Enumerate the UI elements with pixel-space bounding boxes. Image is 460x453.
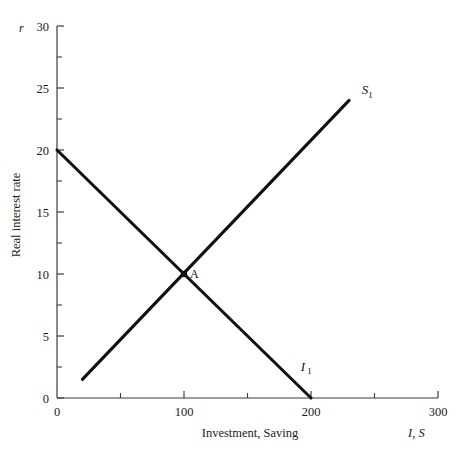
y-tick-label: 30 [37,20,50,34]
chart-annotations-group: A [181,267,199,281]
series-line-S1 [82,100,349,379]
y-tick-label: 0 [43,392,49,406]
series-label-I1: I [300,359,306,374]
x-tick-label: 200 [302,405,321,419]
equilibrium-point-dot [181,271,187,277]
x-tick-label: 100 [175,405,194,419]
y-axis-symbol: r [19,21,24,35]
x-axis-title: Investment, Saving [202,426,299,440]
chart-canvas: 051015202530 0100200300 S1I1 A r Real in… [0,0,460,453]
y-tick-label: 25 [37,82,50,96]
y-tick-label: 20 [37,144,50,158]
y-tick-label: 10 [37,268,50,282]
equilibrium-point-label: A [190,267,199,281]
series-label-sub-S1: 1 [368,90,373,100]
investment-saving-figure: 051015202530 0100200300 S1I1 A r Real in… [0,0,460,453]
series-label-sub-I1: 1 [307,366,312,376]
y-tick-label: 5 [43,330,49,344]
x-tick-label: 300 [429,405,448,419]
x-axis-ticks: 0100200300 [54,391,448,419]
x-tick-label: 0 [54,405,60,419]
y-tick-label: 15 [37,206,50,220]
y-axis-title: Real interest rate [9,172,23,257]
y-axis-ticks: 051015202530 [37,20,65,406]
chart-series-group: S1I1 [57,82,373,398]
x-axis-symbol: I, S [407,426,425,440]
